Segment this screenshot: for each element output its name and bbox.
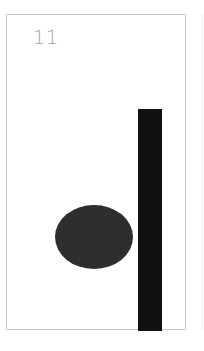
ellipse-shape: [55, 205, 133, 269]
vertical-bar-shape: [138, 109, 162, 331]
card-number: 11: [33, 28, 59, 47]
adjacent-card-edge: [202, 14, 203, 330]
puzzle-card[interactable]: 11: [6, 14, 186, 330]
